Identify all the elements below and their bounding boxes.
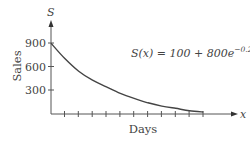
x-axis-var: x: [240, 108, 247, 121]
formula-lhs: S(x) = 100 + 800: [131, 47, 228, 60]
formula-annotation: S(x) = 100 + 800e−0.2x: [131, 45, 250, 60]
y-axis-title: Sales: [10, 50, 24, 81]
y-tick-label-900: 900: [25, 37, 46, 50]
y-axis-arrow-icon: [49, 20, 54, 27]
y-axis-var: S: [47, 6, 55, 19]
chart: S x 900 600 300 Sales Days S(x) = 100 + …: [0, 0, 250, 143]
formula-exponent: −0.2x: [234, 45, 250, 54]
x-axis-arrow-icon: [231, 112, 238, 117]
x-axis-title: Days: [129, 122, 158, 136]
y-tick-label-300: 300: [25, 84, 46, 97]
y-tick-label-600: 600: [25, 61, 46, 74]
